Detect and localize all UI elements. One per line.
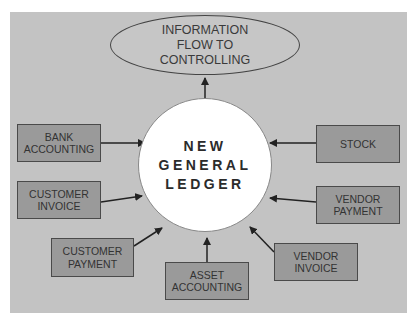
node-label: ASSET	[172, 269, 243, 282]
node-label: BANK	[24, 131, 95, 144]
node-label: GENERAL	[159, 156, 252, 175]
bank-accounting-node: BANK ACCOUNTING	[17, 124, 101, 162]
node-label: INVOICE	[294, 262, 339, 275]
node-label: INVOICE	[29, 200, 89, 213]
arrow-vendor-payment	[270, 198, 316, 202]
information-flow-to-controlling-node: INFORMATION FLOW TO CONTROLLING	[110, 15, 300, 75]
arrow-customer-invoice	[101, 196, 142, 202]
node-label: VENDOR	[333, 193, 382, 206]
node-label: PAYMENT	[333, 205, 382, 218]
node-label: FLOW TO	[160, 38, 250, 53]
stock-node: STOCK	[316, 125, 400, 163]
node-label: VENDOR	[294, 250, 339, 263]
customer-invoice-node: CUSTOMER INVOICE	[17, 181, 101, 219]
new-general-ledger-node: NEW GENERAL LEDGER	[138, 98, 272, 232]
node-label: CONTROLLING	[160, 53, 250, 68]
node-label: ACCOUNTING	[172, 281, 243, 294]
arrow-customer-payment	[134, 228, 162, 246]
node-label: CUSTOMER	[29, 188, 89, 201]
vendor-invoice-node: VENDOR INVOICE	[274, 243, 358, 281]
node-label: STOCK	[340, 138, 376, 151]
asset-accounting-node: ASSET ACCOUNTING	[165, 262, 249, 300]
customer-payment-node: CUSTOMER PAYMENT	[51, 238, 134, 277]
vendor-payment-node: VENDOR PAYMENT	[316, 186, 400, 224]
node-label: LEDGER	[159, 175, 252, 194]
node-label: PAYMENT	[63, 258, 123, 271]
node-label: NEW	[159, 137, 252, 156]
node-label: ACCOUNTING	[24, 143, 95, 156]
node-label: INFORMATION	[160, 23, 250, 38]
arrow-vendor-invoice	[250, 227, 274, 252]
node-label: CUSTOMER	[63, 245, 123, 258]
